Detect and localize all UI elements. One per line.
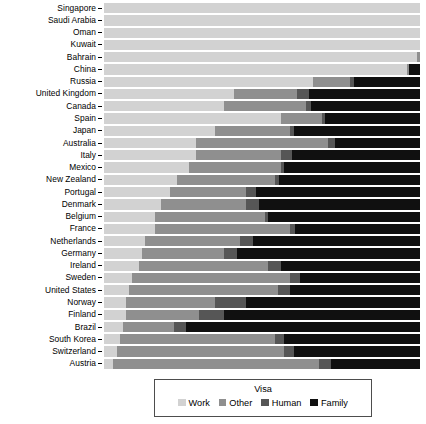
- bar-segment-work: [104, 3, 420, 13]
- bar-segment-human: [240, 236, 253, 246]
- bar-segment-family: [294, 346, 420, 356]
- stacked-bar: [104, 52, 420, 62]
- stacked-bar: [104, 126, 420, 136]
- axis-tick: [97, 314, 104, 315]
- bar-segment-work: [104, 77, 313, 87]
- bar-segment-work: [104, 126, 215, 136]
- axis-tick: [97, 44, 104, 45]
- bar-segment-family: [290, 285, 420, 295]
- bar-segment-other: [123, 322, 174, 332]
- bar-segment-family: [300, 273, 420, 283]
- axis-tick: [97, 167, 104, 168]
- legend-swatch-icon: [219, 399, 227, 407]
- category-label: Switzerland: [0, 347, 97, 356]
- legend-swatch-icon: [261, 399, 269, 407]
- stacked-bar: [104, 150, 420, 160]
- category-label: Saudi Arabia: [0, 16, 97, 25]
- bar-segment-human: [246, 199, 259, 209]
- bar-segment-human: [224, 248, 237, 258]
- bar-segment-work: [104, 322, 123, 332]
- category-label: Canada: [0, 102, 97, 111]
- bar-segment-family: [284, 162, 420, 172]
- bar-segment-work: [104, 40, 420, 50]
- stacked-bar: [104, 346, 420, 356]
- chart-legend: Visa WorkOtherHumanFamily: [154, 379, 372, 417]
- bar-segment-other: [139, 261, 269, 271]
- bar-row: Austria: [0, 358, 426, 370]
- axis-tick: [97, 143, 104, 144]
- legend-item-work[interactable]: Work: [178, 398, 210, 408]
- stacked-bar: [104, 89, 420, 99]
- axis-tick: [97, 93, 104, 94]
- bar-segment-work: [104, 64, 407, 74]
- bar-segment-other: [196, 150, 281, 160]
- bar-segment-family: [409, 64, 420, 74]
- bar-segment-work: [104, 162, 189, 172]
- category-label: Denmark: [0, 200, 97, 209]
- axis-tick: [97, 327, 104, 328]
- bar-segment-family: [279, 175, 420, 185]
- stacked-bar: [104, 113, 420, 123]
- stacked-bar: [104, 162, 420, 172]
- category-label: Singapore: [0, 4, 97, 13]
- bar-segment-family: [268, 212, 420, 222]
- bar-segment-other: [170, 187, 246, 197]
- bar-segment-other: [281, 113, 322, 123]
- category-label: Russia: [0, 77, 97, 86]
- category-label: Italy: [0, 151, 97, 160]
- bar-segment-work: [104, 52, 417, 62]
- stacked-bar: [104, 359, 420, 369]
- bar-segment-other: [196, 138, 329, 148]
- category-label: France: [0, 224, 97, 233]
- bar-segment-human: [268, 261, 281, 271]
- bar-row: South Korea: [0, 333, 426, 345]
- category-label: Sweden: [0, 273, 97, 282]
- category-label: South Korea: [0, 335, 97, 344]
- category-label: Norway: [0, 298, 97, 307]
- stacked-bar: [104, 187, 420, 197]
- bar-segment-work: [104, 248, 142, 258]
- bar-row: France: [0, 223, 426, 235]
- legend-label: Family: [321, 398, 348, 408]
- category-label: Bahrain: [0, 53, 97, 62]
- legend-swatch-icon: [178, 399, 186, 407]
- category-label: Ireland: [0, 261, 97, 270]
- bar-segment-family: [281, 261, 420, 271]
- bar-segment-work: [104, 138, 196, 148]
- legend-item-human[interactable]: Human: [261, 398, 301, 408]
- bar-segment-work: [104, 212, 155, 222]
- bar-segment-family: [309, 89, 420, 99]
- legend-item-family[interactable]: Family: [310, 398, 348, 408]
- bar-segment-human: [278, 285, 291, 295]
- bar-segment-other: [155, 212, 266, 222]
- axis-tick: [97, 253, 104, 254]
- bar-segment-work: [104, 175, 177, 185]
- stacked-bar-chart: SingaporeSaudi ArabiaOmanKuwaitBahrainCh…: [0, 0, 426, 424]
- legend-item-other[interactable]: Other: [219, 398, 252, 408]
- category-label: Austria: [0, 359, 97, 368]
- bar-segment-family: [354, 77, 420, 87]
- category-label: Japan: [0, 126, 97, 135]
- bar-row: Saudi Arabia: [0, 14, 426, 26]
- axis-tick: [97, 8, 104, 9]
- bar-row: Portugal: [0, 186, 426, 198]
- bar-row: Finland: [0, 309, 426, 321]
- bar-row: Netherlands: [0, 235, 426, 247]
- category-label: China: [0, 65, 97, 74]
- bar-segment-human: [284, 346, 293, 356]
- bar-row: Ireland: [0, 260, 426, 272]
- axis-tick: [97, 130, 104, 131]
- stacked-bar: [104, 334, 420, 344]
- stacked-bar: [104, 199, 420, 209]
- bar-segment-family: [335, 138, 420, 148]
- bar-segment-other: [155, 224, 291, 234]
- category-label: Kuwait: [0, 40, 97, 49]
- bar-segment-family: [224, 310, 420, 320]
- stacked-bar: [104, 64, 420, 74]
- bar-segment-work: [104, 285, 129, 295]
- bar-segment-work: [104, 187, 170, 197]
- stacked-bar: [104, 77, 420, 87]
- bar-segment-family: [256, 187, 420, 197]
- bar-row: Australia: [0, 137, 426, 149]
- axis-tick: [97, 351, 104, 352]
